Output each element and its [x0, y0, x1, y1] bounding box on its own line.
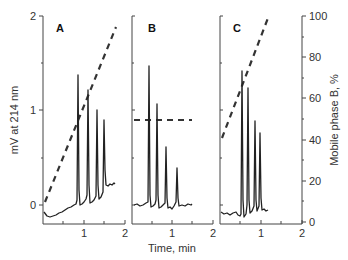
panel-c-trace: [221, 71, 268, 217]
right-tick-80: 80: [309, 51, 321, 63]
panel-a-x-tick-1: 1: [81, 227, 87, 239]
chromatogram-figure: 2 1 0 mV at 214 nm 1 2 A 1 2 B: [0, 0, 348, 260]
panel-a-label: A: [56, 22, 64, 34]
panel-a-x-tick-2: 2: [122, 227, 128, 239]
right-y-axis-title: Mobile phase B, %: [328, 74, 340, 166]
x-axis-title: Time, min: [148, 242, 196, 254]
right-y-axis: 100 80 60 40 20 0 Mobile phase B, %: [302, 10, 340, 228]
panel-a: 1 2 A: [43, 22, 128, 239]
right-tick-0: 0: [309, 216, 315, 228]
panel-b-x-tick-2: 2: [210, 227, 216, 239]
left-y-axis-title: mV at 214 nm: [8, 86, 20, 154]
left-tick-1: 1: [30, 104, 36, 116]
right-tick-40: 40: [309, 134, 321, 146]
panel-c-gradient-line: [222, 18, 268, 138]
panel-b-x-tick-1: 1: [169, 227, 175, 239]
right-tick-100: 100: [309, 10, 327, 22]
right-tick-20: 20: [309, 175, 321, 187]
panel-a-trace: [44, 75, 115, 217]
right-tick-60: 60: [309, 92, 321, 104]
panel-c-label: C: [233, 22, 241, 34]
panel-b: 1 2 B: [132, 16, 216, 239]
panel-c: 1 2 C: [220, 16, 305, 239]
panel-c-x-tick-1: 1: [258, 227, 264, 239]
panel-b-trace: [134, 66, 192, 209]
panel-b-label: B: [148, 22, 156, 34]
panel-c-x-tick-2: 2: [299, 227, 305, 239]
left-tick-2: 2: [30, 10, 36, 22]
left-tick-0: 0: [30, 199, 36, 211]
left-y-axis: 2 1 0 mV at 214 nm: [8, 10, 43, 224]
